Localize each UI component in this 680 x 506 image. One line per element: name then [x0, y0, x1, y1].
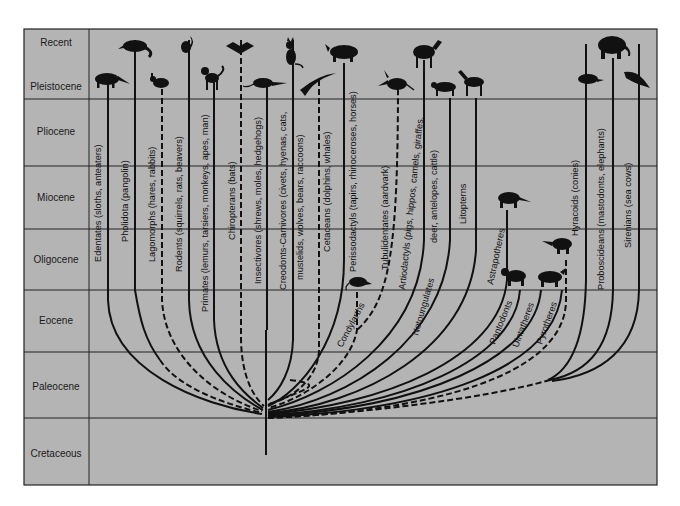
era-label-recent: Recent	[40, 37, 72, 48]
era-label-oligocene: Oligocene	[33, 254, 78, 265]
label-insectivores: Insectivores (shrews, moles, hedgehogs)	[253, 117, 263, 284]
label-lagomorphs: Lagomorphs (hares, rabbits)	[147, 147, 157, 262]
label-creodonts-1: Creodonts-Carnivores (civets, hyenas, ca…	[278, 112, 288, 290]
label-sirenians: Sirenians (sea cows)	[623, 163, 633, 248]
label-perissodactyls: Perissodactyls (tapirs, rhinoceroses, ho…	[348, 91, 358, 272]
era-label-pliocene: Pliocene	[37, 126, 76, 137]
label-chiropterans: Chiropterans (bats)	[227, 161, 237, 240]
era-label-miocene: Miocene	[37, 192, 75, 203]
label-edentates: Edentates (sloths, anteaters)	[93, 145, 103, 262]
mammal-evolution-diagram: Recent Pleistocene Pliocene Miocene Olig…	[0, 0, 680, 506]
era-label-eocene: Eocene	[39, 315, 73, 326]
diagram-background	[24, 29, 657, 485]
era-label-paleocene: Paleocene	[32, 381, 80, 392]
label-hyracoids: Hyracoids (conies)	[570, 160, 580, 236]
label-cetaceans: Cetaceans (dolphins, whales)	[322, 131, 332, 252]
label-rodents: Rodents (squirrels, rats, beavers)	[174, 136, 184, 272]
label-proboscideans: Proboscideans (mastodonts, elephants)	[596, 128, 606, 290]
label-pholidota: Pholidota (pangolin)	[120, 160, 130, 242]
era-label-pleistocene: Pleistocene	[30, 81, 82, 92]
era-label-cretaceous: Cretaceous	[30, 448, 81, 459]
label-primates: Primates (lemurs, tarsiers, monkeys, ape…	[200, 114, 210, 312]
label-litopterns: Litopterns	[458, 183, 468, 224]
label-tubulidentates: Tubulidentates (aardvark)	[380, 166, 390, 270]
label-creodonts-2: mustelids, wolves, bears, raccoons)	[295, 134, 305, 280]
label-artiodactyls-2: deer, antelopes, cattle)	[429, 150, 439, 243]
